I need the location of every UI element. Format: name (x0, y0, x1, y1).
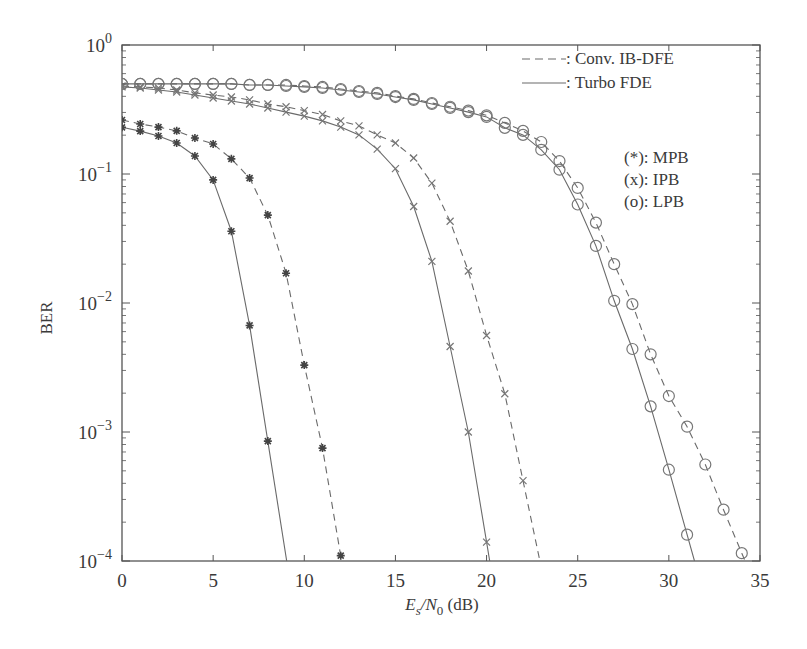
series-ipb-conv-ib-dfe (119, 83, 540, 561)
x-axis-title-e: E (404, 595, 416, 614)
legend: : Conv. IB-DFE: Turbo FDE(*): MPB(x): IP… (522, 49, 689, 211)
x-tick-label: 10 (295, 570, 314, 591)
x-tick-label: 5 (208, 570, 218, 591)
series-mpb-conv-ib-dfe (118, 116, 345, 561)
legend-label: : Turbo FDE (566, 73, 652, 92)
series-mpb-turbo-fde (118, 123, 287, 561)
y-axis-ticks: 10010−110−210−310−4 (78, 31, 760, 572)
y-axis-title: BER (37, 301, 56, 335)
x-axis-ticks: 05101520253035 (117, 45, 769, 591)
y-tick-label: 10−4 (78, 547, 112, 572)
legend-marker-label: (x): IPB (624, 170, 679, 189)
x-tick-label: 15 (386, 570, 405, 591)
y-tick-label: 100 (86, 31, 112, 56)
x-axis-title-n: /N (420, 595, 439, 614)
x-tick-label: 20 (477, 570, 496, 591)
legend-marker-label: (*): MPB (624, 148, 689, 167)
x-tick-label: 35 (751, 570, 770, 591)
legend-marker-label: (o): LPB (624, 192, 684, 211)
ber-chart: 05101520253035 10010−110−210−310−4 : Con… (0, 0, 807, 649)
y-tick-label: 10−2 (78, 289, 112, 314)
legend-label: : Conv. IB-DFE (566, 49, 674, 68)
x-axis-title: Es/N0 (dB) (404, 595, 478, 618)
y-tick-label: 10−1 (78, 160, 112, 185)
y-tick-label: 10−3 (78, 418, 112, 443)
x-tick-label: 0 (117, 570, 127, 591)
x-axis-title-unit: (dB) (443, 595, 478, 614)
x-tick-label: 30 (659, 570, 678, 591)
series-ipb-turbo-fde (119, 83, 491, 561)
x-tick-label: 25 (568, 570, 587, 591)
